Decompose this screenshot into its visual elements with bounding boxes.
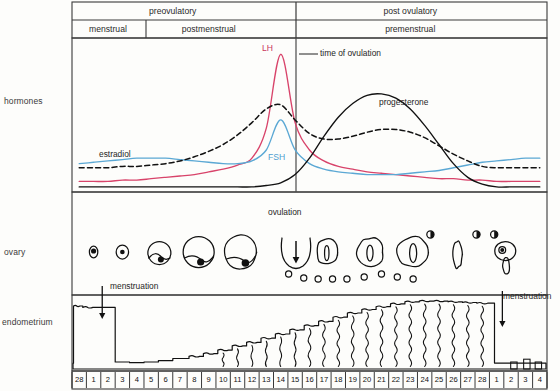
day-number: 5 [144, 375, 158, 384]
day-number: 2 [101, 375, 115, 384]
day-number: 10 [216, 375, 230, 384]
day-number: 11 [230, 375, 244, 384]
label-ovulation: ovulation [268, 207, 302, 217]
day-number: 4 [130, 375, 144, 384]
endometrium-illustration [73, 286, 546, 369]
phase-label-post-ovulatory: post ovulatory [274, 6, 547, 16]
ovary-illustrations [89, 231, 515, 282]
day-number: 4 [533, 375, 547, 384]
hormone-curves [79, 54, 540, 187]
day-number: 23 [403, 375, 417, 384]
day-number: 27 [461, 375, 475, 384]
label-estradiol: estradiol [99, 149, 131, 159]
label-progesterone: progesterone [379, 97, 428, 107]
day-number: 18 [331, 375, 345, 384]
day-number: 22 [389, 375, 403, 384]
day-number: 25 [432, 375, 446, 384]
label-fsh: FSH [268, 152, 285, 162]
day-number: 6 [158, 375, 172, 384]
day-number: 1 [489, 375, 503, 384]
day-number: 8 [187, 375, 201, 384]
phase-label-premenstrual: premenstrual [274, 24, 547, 34]
day-number: 12 [245, 375, 259, 384]
day-number: 9 [202, 375, 216, 384]
phase-label-postmenstrual: postmenstrual [144, 24, 274, 34]
day-number: 26 [446, 375, 460, 384]
label-time-of-ovulation: time of ovulation [320, 48, 381, 58]
day-number: 21 [374, 375, 388, 384]
day-number: 15 [288, 375, 302, 384]
panel-frames [72, 2, 547, 389]
day-number: 28 [72, 375, 86, 384]
day-number: 16 [302, 375, 316, 384]
day-number: 2 [504, 375, 518, 384]
phase-label-preovulatory: preovulatory [72, 6, 274, 16]
day-number: 19 [345, 375, 359, 384]
day-number: 13 [259, 375, 273, 384]
figure-canvas [0, 0, 560, 391]
day-number: 3 [115, 375, 129, 384]
day-number: 24 [417, 375, 431, 384]
day-number: 20 [360, 375, 374, 384]
menstrual-cycle-figure: hormones ovary endometrium preovulatoryp… [0, 0, 560, 391]
curve-progesterone [79, 94, 540, 187]
day-number: 7 [173, 375, 187, 384]
day-number: 3 [518, 375, 532, 384]
day-number: 17 [317, 375, 331, 384]
label-menstruation-left: menstruation [110, 281, 158, 291]
label-lh: LH [262, 43, 273, 53]
phase-label-menstrual: menstrual [72, 24, 144, 34]
curve-fsh [79, 120, 540, 175]
label-menstruation-right: menstruation [503, 291, 551, 301]
day-number: 1 [86, 375, 100, 384]
day-number: 28 [475, 375, 489, 384]
day-number: 14 [274, 375, 288, 384]
